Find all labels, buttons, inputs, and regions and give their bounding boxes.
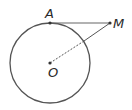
label-a: A (44, 6, 54, 21)
point-a (48, 21, 51, 24)
segment-om-outer (84, 23, 110, 41)
label-o: O (48, 65, 58, 80)
point-m (108, 21, 111, 24)
segment-om-inner-dashed (50, 41, 84, 63)
geometry-diagram: A M O (0, 0, 132, 110)
label-m: M (113, 16, 124, 31)
